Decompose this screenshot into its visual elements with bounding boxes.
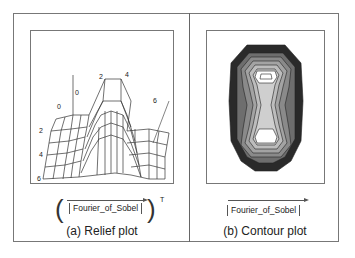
- contour-plot-surface: [207, 31, 326, 185]
- tick-label: 6: [153, 97, 157, 104]
- arrow-line: [67, 200, 145, 201]
- tick-label: 4: [125, 71, 129, 78]
- contour-plot-box: [206, 30, 325, 184]
- tick-label: 0: [57, 103, 61, 110]
- relief-plot-surface: 0 2 4 6 0 2 4 6: [31, 31, 175, 185]
- expression-operand-a: Fourier_of_Sobel: [69, 203, 142, 214]
- tick-label: 2: [39, 127, 43, 134]
- left-paren: (: [55, 196, 64, 222]
- right-paren: ): [147, 196, 156, 222]
- arrow-head-icon: [304, 198, 309, 202]
- tick-label: 4: [39, 151, 43, 158]
- expression-operand-b: Fourier_of_Sobel: [227, 205, 300, 216]
- caption-relief-plot: (a) Relief plot: [30, 224, 174, 238]
- relief-plot-box: 0 2 4 6 0 2 4 6: [30, 30, 174, 184]
- transpose-marker: T: [160, 196, 164, 203]
- tick-label: 0: [75, 89, 79, 96]
- tick-label: 2: [99, 73, 103, 80]
- tick-label: 6: [37, 175, 41, 182]
- panel-divider: [189, 13, 190, 242]
- arrow-line: [228, 200, 306, 201]
- caption-contour-plot: (b) Contour plot: [190, 224, 340, 238]
